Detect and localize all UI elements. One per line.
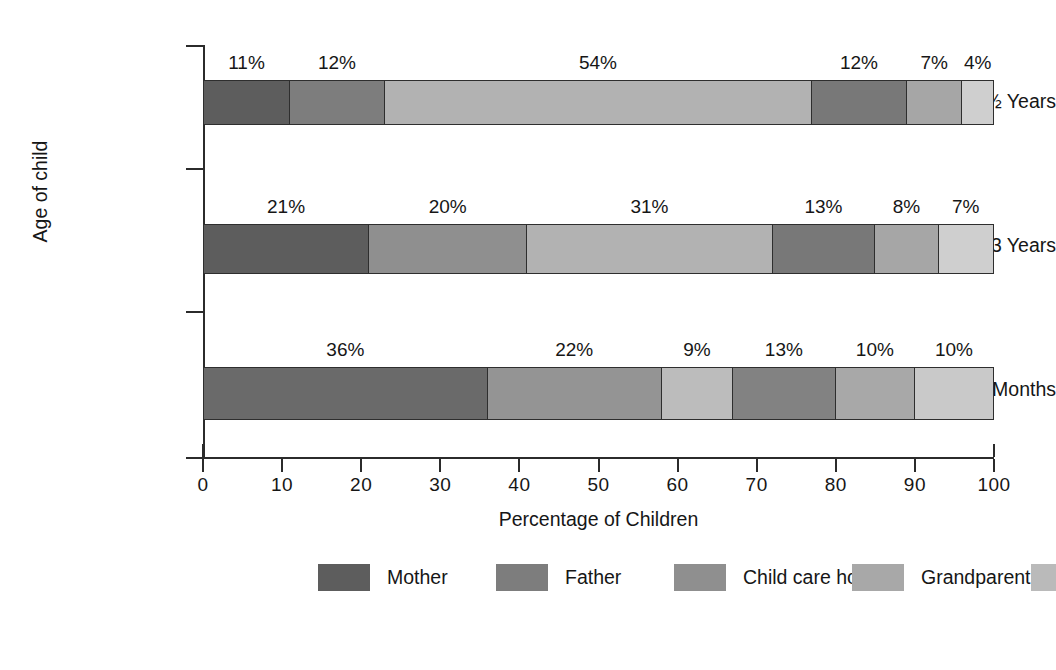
- bar-segment: 36%: [203, 367, 488, 420]
- legend-item[interactable]: Mother: [318, 556, 496, 598]
- x-axis-tick: [202, 459, 204, 472]
- x-axis-tick: [993, 459, 995, 472]
- x-axis-tick-label: 40: [489, 474, 549, 496]
- legend-color-swatch: [852, 564, 904, 591]
- bar-segment: 10%: [836, 367, 915, 420]
- bar-segment-value-label: 7%: [952, 196, 979, 218]
- bar-segment: 7%: [939, 224, 994, 274]
- x-axis-tick: [756, 459, 758, 472]
- bar-segment: 54%: [385, 80, 812, 125]
- bar-segment: 31%: [527, 224, 772, 274]
- bar-segment-value-label: 10%: [935, 339, 973, 361]
- bar-segment-value-label: 13%: [765, 339, 803, 361]
- y-axis-tick: [186, 311, 204, 313]
- x-axis-tick: [914, 459, 916, 472]
- x-axis-tick: [439, 459, 441, 472]
- bar-segment-value-label: 12%: [318, 52, 356, 74]
- x-axis-tick-label: 0: [173, 474, 233, 496]
- bar-segment-value-label: 8%: [893, 196, 920, 218]
- bar-segment-value-label: 4%: [964, 52, 991, 74]
- stacked-bar: 36%22%9%13%10%10%: [203, 367, 994, 420]
- bar-segment: 4%: [962, 80, 994, 125]
- x-axis-title: Percentage of Children: [203, 508, 994, 531]
- bar-segment-value-label: 11%: [228, 52, 265, 74]
- legend-item[interactable]: Father: [496, 556, 674, 598]
- bar-segment: 13%: [773, 224, 876, 274]
- stacked-bar-chart: Age of child 4½ Years 3 Years 6 Months 1…: [0, 0, 1056, 670]
- x-axis-tick: [360, 459, 362, 472]
- bar-segment-value-label: 10%: [856, 339, 894, 361]
- y-axis-tick: [186, 45, 204, 47]
- legend-item[interactable]: Grandparent: [852, 556, 1031, 598]
- bar-segment: 21%: [203, 224, 369, 274]
- x-axis-tick: [677, 459, 679, 472]
- legend-color-swatch: [318, 564, 370, 591]
- x-axis-tick-label: 60: [648, 474, 708, 496]
- bar-segment: 22%: [488, 367, 662, 420]
- x-axis-tick: [518, 459, 520, 472]
- bar-segment: 10%: [915, 367, 994, 420]
- bar-segment-value-label: 7%: [920, 52, 947, 74]
- legend-item-label: Mother: [387, 566, 448, 589]
- x-axis-tick-label: 100: [964, 474, 1024, 496]
- stacked-bar: 21%20%31%13%8%7%: [203, 224, 994, 274]
- bar-segment: 12%: [812, 80, 907, 125]
- bar-segment: 7%: [907, 80, 962, 125]
- bar-segment-value-label: 13%: [804, 196, 842, 218]
- y-axis-title: Age of child: [29, 112, 52, 272]
- bar-segment: 8%: [875, 224, 938, 274]
- bar-segment-value-label: 12%: [840, 52, 878, 74]
- bar-segment: 13%: [733, 367, 836, 420]
- bar-segment: 11%: [203, 80, 290, 125]
- bar-segment: 9%: [662, 367, 733, 420]
- bar-segment: 12%: [290, 80, 385, 125]
- bar-segment-value-label: 31%: [630, 196, 668, 218]
- x-axis-tick-label: 90: [885, 474, 945, 496]
- x-axis-tick-label: 70: [727, 474, 787, 496]
- x-axis-tick-upper: [202, 444, 204, 457]
- y-axis-tick: [186, 168, 204, 170]
- legend-item[interactable]: Child care home: [674, 556, 852, 598]
- stacked-bar: 11%12%54%12%7%4%: [203, 80, 994, 125]
- x-axis-tick-label: 50: [569, 474, 629, 496]
- x-axis-tick-label: 30: [410, 474, 470, 496]
- x-axis-tick-label: 80: [806, 474, 866, 496]
- legend-color-swatch: [496, 564, 548, 591]
- x-axis-tick: [835, 459, 837, 472]
- bar-segment-value-label: 21%: [267, 196, 305, 218]
- x-axis-tick-label: 10: [252, 474, 312, 496]
- chart-legend: MotherFatherChild care homeGrandparentCe…: [318, 556, 1056, 598]
- bar-segment-value-label: 20%: [429, 196, 467, 218]
- legend-color-swatch: [1031, 564, 1056, 591]
- legend-color-swatch: [674, 564, 726, 591]
- bar-segment-value-label: 9%: [683, 339, 710, 361]
- bar-segment-value-label: 54%: [579, 52, 617, 74]
- x-axis-tick-label: 20: [331, 474, 391, 496]
- bar-segment: 20%: [369, 224, 527, 274]
- x-axis-tick: [281, 459, 283, 472]
- legend-item[interactable]: Center: [1031, 556, 1056, 598]
- x-axis-tick: [598, 459, 600, 472]
- legend-item-label: Grandparent: [921, 566, 1031, 589]
- bar-segment-value-label: 36%: [326, 339, 364, 361]
- legend-item-label: Father: [565, 566, 621, 589]
- bar-segment-value-label: 22%: [555, 339, 593, 361]
- x-axis-tick-upper: [993, 444, 995, 457]
